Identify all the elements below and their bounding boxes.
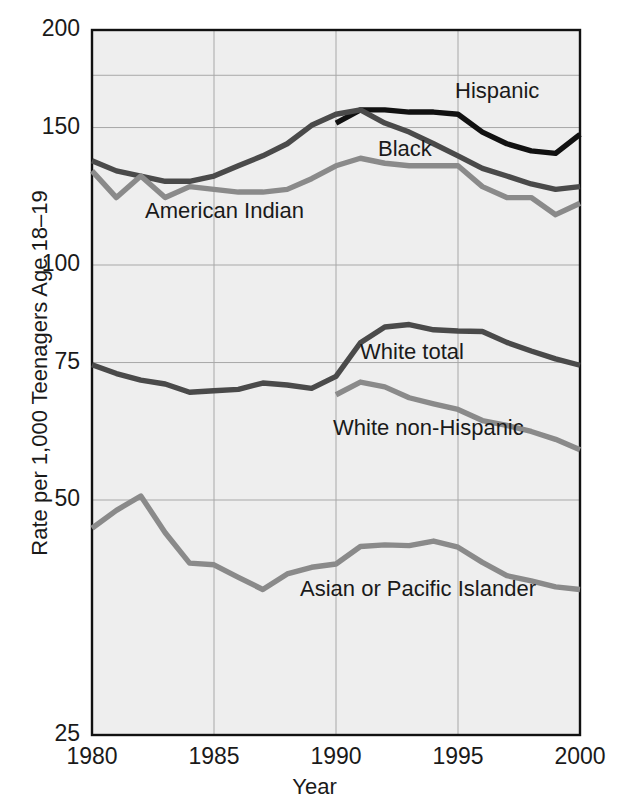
series-label-american-indian: American Indian [145,198,304,224]
series-label-hispanic: Hispanic [455,78,539,104]
x-tick-label-2000: 2000 [525,743,629,770]
y-tick-label-150: 150 [0,113,80,140]
x-tick-label-1985: 1985 [159,743,269,770]
series-label-white-total: White total [360,339,464,365]
x-tick-label-1990: 1990 [281,743,391,770]
y-tick-label-200: 200 [0,15,80,42]
x-axis-title: Year [0,774,629,800]
series-label-black: Black [378,136,432,162]
series-label-asian-or-pacific-islander: Asian or Pacific Islander [300,576,536,602]
chart-figure: Rate per 1,000 Teenagers Age 18–19 Year … [0,0,629,806]
y-tick-label-50: 50 [0,485,80,512]
x-tick-label-1995: 1995 [403,743,513,770]
chart-plot-area [0,0,629,806]
y-tick-label-75: 75 [0,348,80,375]
x-tick-label-1980: 1980 [37,743,147,770]
series-label-white-non-hispanic: White non-Hispanic [333,415,524,441]
y-tick-label-100: 100 [0,250,80,277]
